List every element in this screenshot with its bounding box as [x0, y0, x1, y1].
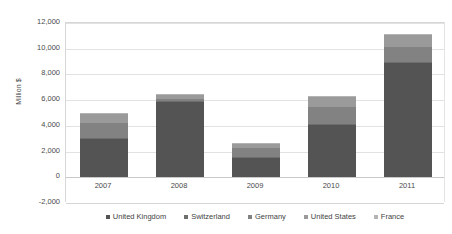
y-tick-label: 4,000 — [0, 120, 60, 129]
legend-label: Switzerland — [191, 213, 230, 221]
legend-swatch-icon — [304, 215, 308, 219]
bar-group[interactable] — [384, 23, 432, 203]
bar-segment[interactable] — [232, 144, 280, 148]
bar-segment[interactable] — [156, 101, 204, 102]
bar-segment[interactable] — [384, 63, 432, 177]
y-tick-label: 12,000 — [0, 17, 60, 26]
legend-label: United States — [311, 213, 356, 221]
bar-segment[interactable] — [156, 102, 204, 178]
y-tick-label: 0 — [0, 171, 60, 180]
y-tick-label: 8,000 — [0, 68, 60, 77]
legend-label: United Kingdom — [113, 213, 166, 221]
legend-item[interactable]: Germany — [248, 213, 286, 221]
bar-segment[interactable] — [156, 94, 204, 95]
bar-segment[interactable] — [308, 97, 356, 108]
bar-segment[interactable] — [384, 35, 432, 47]
x-tick-label: 2009 — [225, 181, 285, 190]
bar-segment[interactable] — [80, 123, 128, 138]
bar-segment[interactable] — [308, 96, 356, 97]
x-tick-label: 2011 — [377, 181, 437, 190]
y-tick-label: -2,000 — [0, 197, 60, 206]
chart-legend: United KingdomSwitzerlandGermanyUnited S… — [65, 213, 445, 221]
bar-segment[interactable] — [232, 157, 280, 177]
bar-segment[interactable] — [80, 114, 128, 123]
bar-group[interactable] — [156, 23, 204, 203]
legend-swatch-icon — [106, 215, 110, 219]
stacked-bar-chart: Million $ 12,00010,0008,0006,0004,0002,0… — [0, 0, 452, 234]
bar-segment[interactable] — [80, 139, 128, 177]
y-axis-title: Million $ — [15, 62, 22, 122]
bar-segment[interactable] — [308, 124, 356, 125]
legend-swatch-icon — [184, 215, 188, 219]
bar-segment[interactable] — [80, 113, 128, 114]
legend-item[interactable]: United States — [304, 213, 356, 221]
x-tick-label: 2010 — [301, 181, 361, 190]
bars-layer — [66, 23, 444, 202]
legend-label: France — [381, 213, 404, 221]
bar-segment[interactable] — [384, 47, 432, 62]
legend-item[interactable]: United Kingdom — [106, 213, 166, 221]
plot-area — [65, 22, 445, 202]
bar-group[interactable] — [80, 23, 128, 203]
legend-item[interactable]: Switzerland — [184, 213, 230, 221]
bar-segment[interactable] — [384, 34, 432, 35]
y-tick-label: 2,000 — [0, 146, 60, 155]
gridline--2000 — [66, 203, 444, 204]
bar-segment[interactable] — [384, 62, 432, 63]
bar-segment[interactable] — [156, 99, 204, 101]
bar-segment[interactable] — [308, 125, 356, 177]
legend-swatch-icon — [374, 215, 378, 219]
x-tick-label: 2007 — [73, 181, 133, 190]
legend-label: Germany — [255, 213, 286, 221]
x-tick-label: 2008 — [149, 181, 209, 190]
bar-segment[interactable] — [232, 148, 280, 156]
bar-segment[interactable] — [232, 157, 280, 158]
bar-group[interactable] — [308, 23, 356, 203]
bar-segment[interactable] — [156, 94, 204, 99]
y-tick-label: 10,000 — [0, 43, 60, 52]
bar-group[interactable] — [232, 23, 280, 203]
bar-segment[interactable] — [232, 143, 280, 144]
legend-item[interactable]: France — [374, 213, 404, 221]
y-tick-label: 6,000 — [0, 94, 60, 103]
bar-segment[interactable] — [308, 107, 356, 123]
bar-segment[interactable] — [80, 138, 128, 139]
legend-swatch-icon — [248, 215, 252, 219]
